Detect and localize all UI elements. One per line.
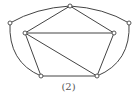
edge-top-inner-right bbox=[70, 6, 114, 33]
vertex-outer-right bbox=[127, 21, 131, 25]
edge-inner-left-bottom-left bbox=[25, 33, 41, 76]
vertex-bottom-right bbox=[95, 74, 99, 78]
edge-inner-right-bottom-right bbox=[97, 33, 114, 76]
edge-top-inner-left bbox=[25, 6, 70, 33]
vertex-top bbox=[68, 4, 72, 8]
edge-inner-left-bottom-right bbox=[25, 33, 97, 76]
vertex-inner-left bbox=[23, 31, 27, 35]
vertex-inner-right bbox=[112, 31, 116, 35]
curved-edge-outer-left-top bbox=[10, 6, 70, 23]
vertex-bottom-left bbox=[39, 74, 43, 78]
figure-caption: (2) bbox=[0, 81, 137, 92]
edges bbox=[10, 6, 129, 76]
vertex-outer-left bbox=[8, 21, 12, 25]
curved-edge-top-outer-right bbox=[70, 6, 129, 23]
